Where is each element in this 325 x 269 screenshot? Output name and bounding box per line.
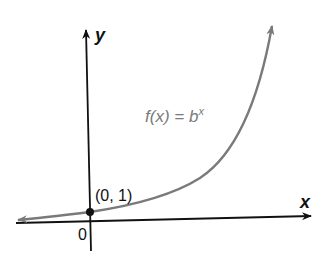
x-axis: [16, 216, 311, 223]
y-axis: [86, 30, 91, 251]
x-axis-label: x: [300, 193, 310, 211]
function-exponent: x: [198, 105, 204, 117]
function-label: f(x) = bx: [145, 108, 204, 125]
y-intercept-point: [86, 208, 94, 216]
point-label: (0, 1): [95, 188, 132, 204]
y-axis-label: y: [95, 26, 105, 44]
function-base: f(x) = b: [145, 107, 198, 126]
origin-label: 0: [78, 227, 87, 243]
exponential-curve-left-tail: [18, 212, 90, 220]
graph-svg: [0, 0, 325, 269]
exponential-graph: y x 0 (0, 1) f(x) = bx: [0, 0, 325, 269]
